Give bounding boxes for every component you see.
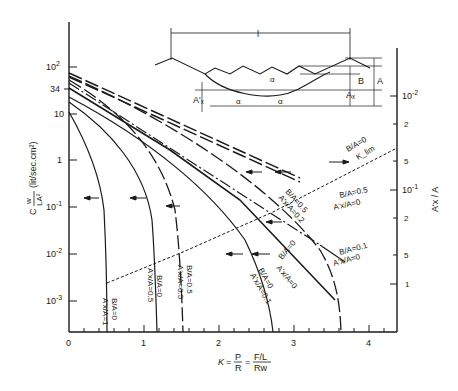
curve-ba0-ax01 — [69, 97, 273, 332]
svg-text:1: 1 — [405, 280, 410, 289]
svg-text:α: α — [278, 97, 283, 106]
curve-labels: B/A=0 A'x/A=1 B/A=0 A'x/A=0.5 B/A=0.5 A'… — [101, 135, 377, 326]
svg-text:10-2: 10-2 — [46, 247, 62, 259]
svg-text:A'x/A=0: A'x/A=0 — [332, 252, 361, 268]
svg-text:l: l — [257, 29, 259, 39]
x-ticks — [84, 325, 384, 332]
svg-text:A'ₓ: A'ₓ — [193, 95, 204, 105]
svg-text:5: 5 — [404, 157, 409, 166]
curve-ba05-ax0 — [69, 73, 300, 178]
chart-figure: 0 1 2 3 4 K = P R = F/L Rw 102 34 10 1 1… — [0, 0, 458, 391]
svg-text:2: 2 — [404, 214, 409, 223]
svg-text:F/L: F/L — [254, 352, 267, 362]
svg-text:10-1: 10-1 — [46, 200, 62, 212]
svg-text:B/A=0.5: B/A=0.5 — [185, 265, 194, 294]
x-tick-0: 0 — [66, 338, 71, 348]
svg-text:B/A=0: B/A=0 — [155, 275, 164, 298]
svg-text:102: 102 — [46, 60, 60, 72]
svg-text:α: α — [270, 75, 275, 84]
x-tick-labels: 0 1 2 3 4 — [66, 338, 371, 348]
svg-text:10-3: 10-3 — [46, 294, 62, 306]
y-ticks-left — [64, 67, 77, 301]
y-tick-labels-right: 10-2 2 5 10-1 2 5 1 — [402, 89, 418, 289]
y-axis-label-left: C w LA² (lit/sec.cm²) — [24, 142, 44, 216]
svg-text:C: C — [28, 208, 38, 215]
svg-text:B: B — [358, 76, 364, 86]
svg-text:A: A — [377, 76, 383, 86]
svg-text:A'x/A=0.5: A'x/A=0.5 — [176, 265, 185, 300]
svg-text:10-1: 10-1 — [402, 183, 418, 195]
svg-text:Rw: Rw — [254, 363, 267, 373]
svg-text:5: 5 — [404, 251, 409, 260]
svg-text:2: 2 — [404, 120, 409, 129]
curve-ba01-ax0 — [69, 83, 320, 245]
svg-text:A'x/A=1: A'x/A=1 — [101, 298, 110, 326]
inset-labels: l α α α B A Aₓ A'ₓ — [193, 29, 383, 106]
svg-text:A'x/A=0: A'x/A=0 — [274, 264, 299, 291]
svg-text:w: w — [24, 198, 33, 205]
y-tick-labels-left: 102 34 10 1 10-1 10-2 10-3 — [46, 60, 64, 306]
svg-text:R: R — [235, 363, 242, 373]
svg-text:1: 1 — [57, 155, 62, 165]
svg-text:K: K — [218, 357, 225, 367]
axes — [69, 22, 397, 332]
y-ticks-right — [390, 96, 397, 284]
svg-text:A'x/A=0: A'x/A=0 — [333, 197, 362, 212]
svg-text:Aₓ: Aₓ — [346, 90, 355, 100]
svg-text:10-2: 10-2 — [402, 89, 418, 101]
svg-text:10: 10 — [54, 109, 64, 119]
svg-text:=: = — [245, 357, 250, 367]
y-axis-label-right: A'x / A — [430, 187, 440, 212]
svg-text:=: = — [226, 357, 231, 367]
x-tick-1: 1 — [141, 338, 146, 348]
svg-text:LA²: LA² — [35, 193, 44, 206]
x-tick-4: 4 — [366, 338, 371, 348]
svg-text:P: P — [235, 352, 241, 362]
svg-text:α: α — [236, 97, 241, 106]
svg-text:(lit/sec.cm²): (lit/sec.cm²) — [28, 142, 38, 189]
svg-text:B/A=0: B/A=0 — [110, 298, 119, 321]
x-tick-2: 2 — [216, 338, 221, 348]
x-axis-label: K = P R = F/L Rw — [218, 352, 271, 373]
x-tick-3: 3 — [291, 338, 296, 348]
svg-text:A'x/A=0.5: A'x/A=0.5 — [146, 268, 155, 303]
svg-text:34: 34 — [50, 84, 60, 94]
